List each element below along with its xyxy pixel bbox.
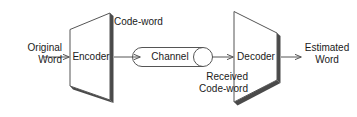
decoder-label: Decoder [230,51,282,62]
encoder-label: Encoder [68,51,114,62]
original-word-label: Original Word [2,42,62,65]
received-code-word-label: Received Code-word [160,71,248,94]
channel-label: Channel [139,51,201,62]
encoder-channel-decoder-diagram: Encoder Channel Decoder Original Word Co… [0,0,357,117]
estimated-word-label: Estimated Word [297,42,357,65]
code-word-label: Code-word [114,16,194,28]
